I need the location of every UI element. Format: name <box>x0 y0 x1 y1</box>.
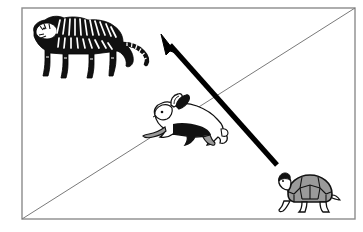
hare-tail <box>221 129 228 137</box>
tiger-eye <box>43 27 45 29</box>
figure-container: length of legs <box>0 0 363 232</box>
tiger-head <box>36 23 57 39</box>
plot-area <box>0 0 363 232</box>
hare-eye <box>161 111 164 114</box>
tortoise-eye <box>282 180 284 182</box>
